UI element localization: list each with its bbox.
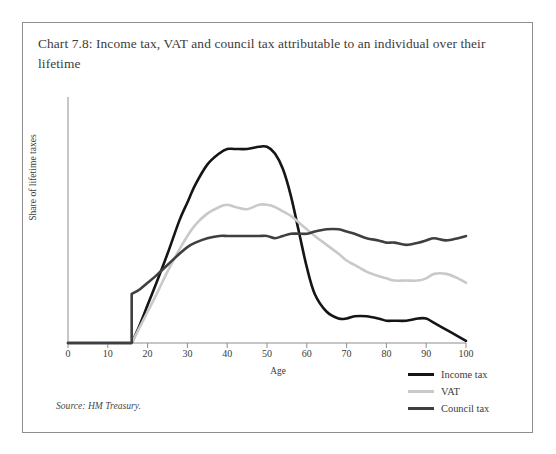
legend-item[interactable]: Council tax (408, 400, 489, 417)
legend-swatch-icon (408, 407, 434, 410)
x-axis-tick-label: 60 (292, 348, 322, 359)
legend-item[interactable]: VAT (408, 383, 489, 400)
legend-item[interactable]: Income tax (408, 366, 489, 383)
x-axis-tick-label: 70 (332, 348, 362, 359)
x-axis-tick-label: 100 (451, 348, 481, 359)
x-axis-tick-label: 40 (212, 348, 242, 359)
x-axis-tick-label: 10 (93, 348, 123, 359)
series-line-vat (68, 204, 466, 343)
legend-label: VAT (441, 386, 460, 397)
chart-legend: Income taxVATCouncil tax (408, 366, 489, 417)
y-axis-label: Share of lifetime taxes (27, 108, 38, 248)
source-note: Source: HM Treasury. (56, 400, 141, 411)
x-axis-tick-label: 20 (133, 348, 163, 359)
axes (68, 97, 466, 348)
chart-figure: Chart 7.8: Income tax, VAT and council t… (0, 0, 556, 454)
x-axis-tick-label: 50 (252, 348, 282, 359)
legend-label: Income tax (441, 369, 487, 380)
x-axis-tick-label: 30 (172, 348, 202, 359)
x-axis-tick-label: 0 (53, 348, 83, 359)
legend-swatch-icon (408, 373, 434, 376)
x-axis-tick-label: 80 (371, 348, 401, 359)
x-axis-tick-label: 90 (411, 348, 441, 359)
legend-swatch-icon (408, 390, 434, 393)
series-line-council-tax (68, 229, 466, 343)
legend-label: Council tax (441, 403, 489, 414)
data-series (68, 146, 466, 343)
